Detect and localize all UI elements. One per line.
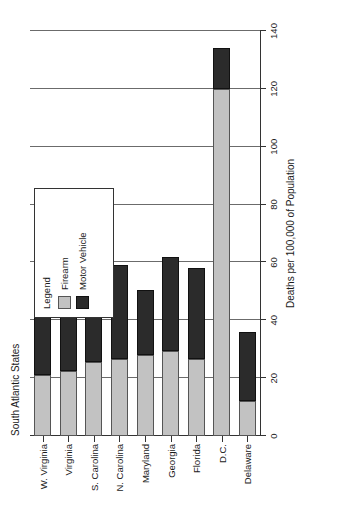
- category-tick: [94, 436, 95, 442]
- legend-title: Legend: [41, 197, 52, 309]
- bar-segment-firearm[interactable]: [111, 359, 128, 436]
- x-tick: [260, 204, 266, 205]
- x-tick: [260, 30, 266, 31]
- bar-segment-motor-vehicle[interactable]: [239, 332, 256, 401]
- rotated-figure: South Atlantic States 020406080100120140…: [0, 0, 340, 508]
- legend-swatch-motor-vehicle-icon: [76, 296, 89, 309]
- x-tick: [260, 261, 266, 262]
- category-axis-line: [260, 31, 261, 436]
- legend-label-firearm: Firearm: [59, 257, 70, 290]
- category-label: Delaware: [242, 444, 253, 508]
- bar-segment-firearm[interactable]: [34, 375, 51, 436]
- category-label: W. Virginia: [37, 444, 48, 508]
- category-label: D.C.: [216, 444, 227, 508]
- chart-title: South Atlantic States: [10, 344, 21, 436]
- x-tick: [260, 88, 266, 89]
- chart-canvas: South Atlantic States 020406080100120140…: [0, 0, 340, 508]
- category-tick: [196, 436, 197, 442]
- bar-segment-motor-vehicle[interactable]: [162, 257, 179, 351]
- x-tick: [260, 377, 266, 378]
- category-label: S. Carolina: [88, 444, 99, 508]
- category-tick: [222, 436, 223, 442]
- bar-segment-firearm[interactable]: [188, 359, 205, 436]
- bar-segment-firearm[interactable]: [213, 89, 230, 436]
- x-tick-label: 100: [268, 139, 279, 155]
- bar-segment-motor-vehicle[interactable]: [137, 290, 154, 355]
- x-tick-label: 140: [268, 23, 279, 39]
- category-tick: [145, 436, 146, 442]
- legend-swatch-firearm-icon: [58, 296, 71, 309]
- legend-box: Legend Firearm Motor Vehicle: [34, 188, 114, 318]
- x-tick: [260, 319, 266, 320]
- category-label: N. Carolina: [114, 444, 125, 508]
- legend-label-motor-vehicle: Motor Vehicle: [77, 232, 88, 290]
- category-tick: [247, 436, 248, 442]
- x-tick-label: 60: [268, 257, 279, 268]
- bar-segment-firearm[interactable]: [60, 371, 77, 436]
- bar-segment-firearm[interactable]: [85, 362, 102, 436]
- x-axis-title: Deaths per 100,000 of Population: [285, 31, 296, 436]
- bar-segment-motor-vehicle[interactable]: [188, 268, 205, 359]
- x-tick-label: 40: [268, 315, 279, 326]
- x-tick-label: 20: [268, 373, 279, 384]
- bar-segment-firearm[interactable]: [162, 351, 179, 436]
- legend-item-firearm: Firearm: [58, 197, 71, 309]
- category-label: Maryland: [140, 444, 151, 508]
- category-label: Georgia: [165, 444, 176, 508]
- legend-item-motor-vehicle: Motor Vehicle: [76, 197, 89, 309]
- x-tick-label: 120: [268, 81, 279, 97]
- category-tick: [68, 436, 69, 442]
- bar-segment-firearm[interactable]: [137, 355, 154, 436]
- x-tick-label: 0: [268, 433, 279, 438]
- category-tick: [171, 436, 172, 442]
- category-tick: [43, 436, 44, 442]
- bar-segment-motor-vehicle[interactable]: [213, 48, 230, 89]
- x-tick: [260, 435, 266, 436]
- category-label: Florida: [191, 444, 202, 508]
- x-tick-label: 80: [268, 199, 279, 210]
- x-tick: [260, 146, 266, 147]
- category-label: Virginia: [63, 444, 74, 508]
- category-tick: [119, 436, 120, 442]
- bar-segment-firearm[interactable]: [239, 401, 256, 436]
